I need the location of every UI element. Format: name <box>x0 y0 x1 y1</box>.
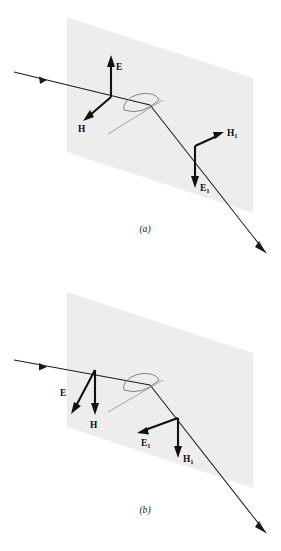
vector-label-H-a: H <box>78 124 86 134</box>
vector-label-E-b: E <box>60 388 66 398</box>
incident-ray-arrowhead-a <box>39 77 47 85</box>
interface-plane-a <box>67 17 253 213</box>
optics-figure-root: E H H1 E1 (a) <box>0 0 281 551</box>
incident-ray-arrowhead-b <box>39 363 47 371</box>
vector-label-E-a: E <box>116 62 122 72</box>
refracted-ray-arrowhead-b <box>255 521 266 533</box>
panel-caption-a: (a) <box>139 223 150 235</box>
refracted-ray-arrowhead-a <box>255 241 266 253</box>
panel-caption-b: (b) <box>139 504 150 516</box>
figure-canvas: E H H1 E1 (a) <box>0 0 281 551</box>
panel-b: E H E1 H1 (b) <box>14 292 266 533</box>
vector-label-H-b: H <box>90 420 98 430</box>
panel-a: E H H1 E1 (a) <box>14 17 266 253</box>
